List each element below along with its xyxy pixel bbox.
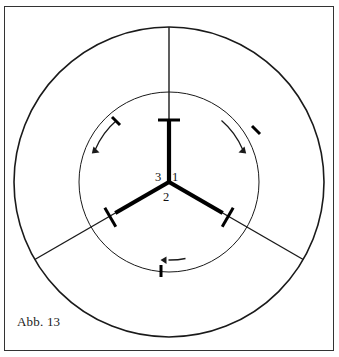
figure-caption: Abb. 13 <box>17 314 60 330</box>
tick-lower-left-icon <box>105 208 116 227</box>
figure-page: 1 2 3 Abb. 13 <box>0 0 339 357</box>
vector-3 <box>169 182 223 213</box>
vector-label-1: 1 <box>172 170 178 184</box>
arrow-tail-upper-right-icon <box>252 126 260 134</box>
tick-lower-right-icon <box>222 208 233 227</box>
vector-label-3: 3 <box>155 170 161 184</box>
vector-star-diagram: 1 2 3 <box>0 0 339 357</box>
rotation-arrow-upper-right <box>222 121 243 150</box>
rotation-arrow-upper-left <box>95 121 116 150</box>
rotation-arrow-bottom <box>169 259 186 261</box>
vector-2 <box>115 182 169 213</box>
vector-label-2: 2 <box>163 190 169 204</box>
arrowhead-bottom-icon <box>161 257 167 265</box>
